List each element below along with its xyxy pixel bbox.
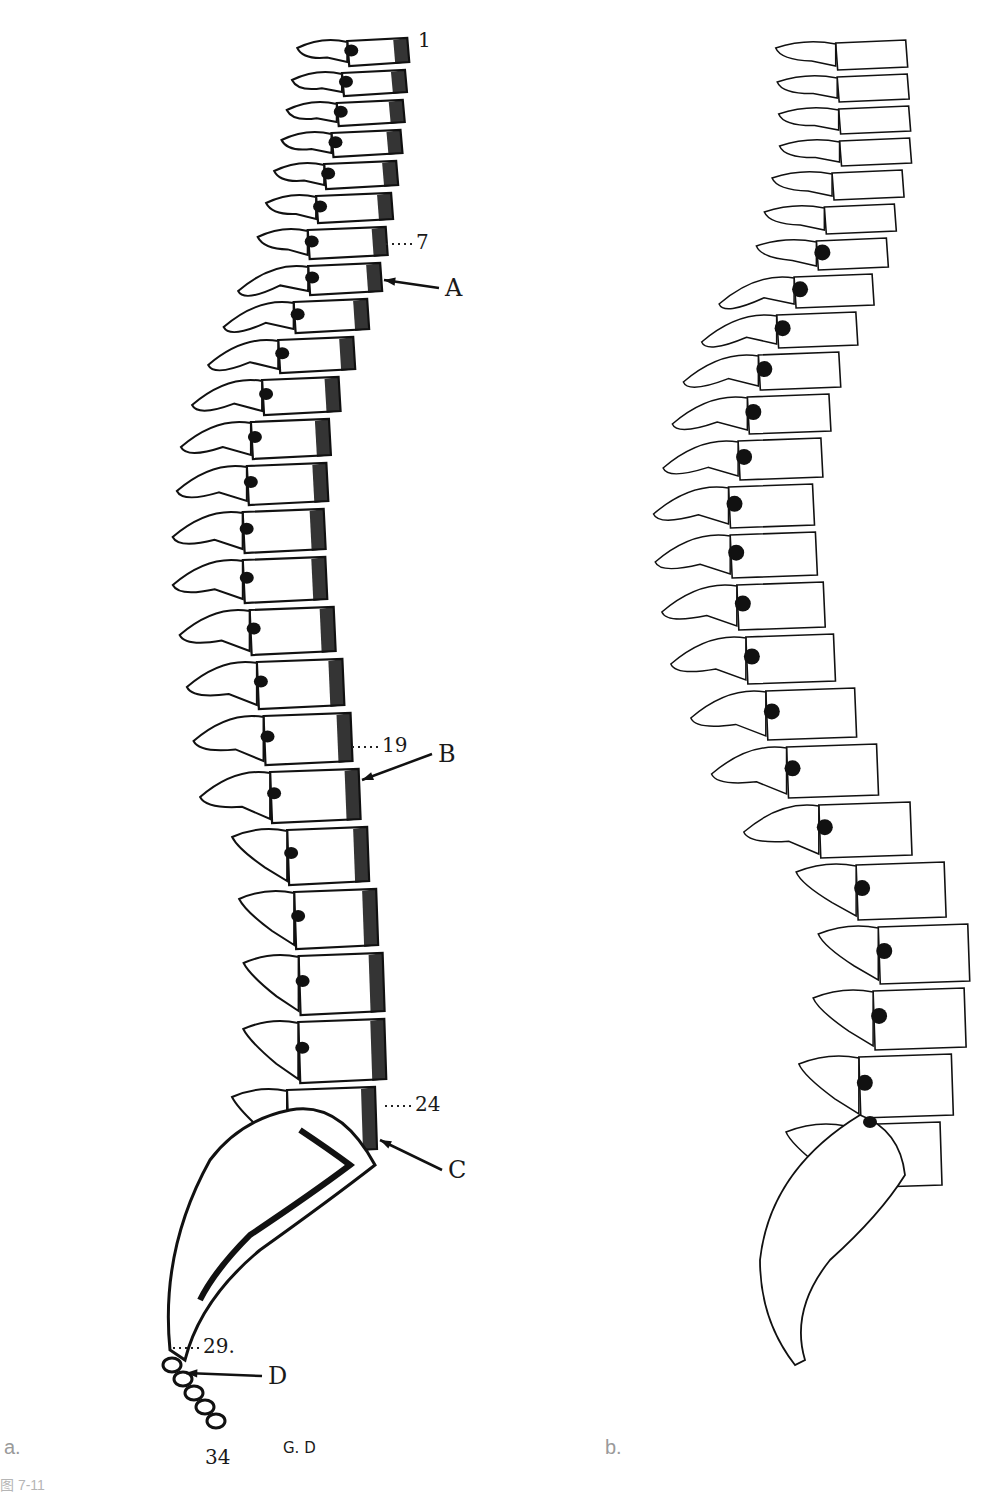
label-num-24: 24 [415, 1094, 440, 1114]
label-letter-C: C [448, 1158, 466, 1182]
spine-a-shaded [163, 38, 409, 1428]
label-letter-B: B [438, 742, 456, 766]
label-num-19: 19 [382, 735, 407, 755]
panel-a-label: a. [4, 1436, 21, 1459]
figure-caption: 图 7-11 [0, 1474, 45, 1494]
panel-b-label: b. [605, 1436, 622, 1459]
spine-b-outline [654, 40, 970, 1365]
label-letter-D: D [268, 1364, 287, 1388]
label-num-7: 7 [416, 232, 429, 252]
label-num-1: 1 [418, 30, 431, 50]
label-letter-A: A [445, 276, 462, 300]
label-signature: G. D [283, 1441, 316, 1456]
label-num-34: 34 [205, 1447, 230, 1467]
label-num-29: 29. [203, 1336, 235, 1356]
